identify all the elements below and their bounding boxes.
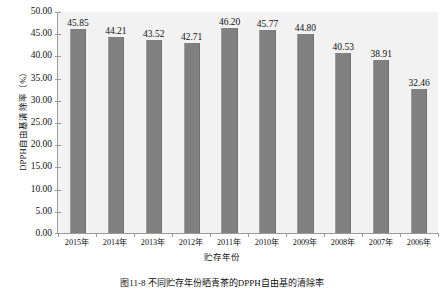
x-axis-title: 贮存年份 [0, 252, 444, 263]
bar-value-label: 42.71 [181, 32, 202, 42]
x-tick-mark [362, 233, 363, 237]
y-tick-label: 10.00 [12, 185, 52, 195]
x-tick-label: 2007年 [362, 238, 400, 248]
x-tick-mark [210, 233, 211, 237]
x-tick-mark [172, 233, 173, 237]
bar-slot: 46.20 [211, 12, 249, 233]
bar-value-label: 45.85 [67, 18, 88, 28]
bar-value-label: 43.52 [143, 29, 164, 39]
bar-slot: 43.52 [135, 12, 173, 233]
x-axis-tick-labels: 2015年2014年2013年2012年2011年2010年2009年2008年… [58, 238, 438, 248]
x-tick-label: 2012年 [172, 238, 210, 248]
figure-caption: 图11-8 不同贮存年份晒青茶的DPPH自由基的清除率 [0, 278, 444, 289]
bar-slot: 40.53 [324, 12, 362, 233]
bar[interactable] [411, 89, 427, 233]
bar-value-label: 40.53 [333, 42, 354, 52]
bar-value-label: 45.77 [257, 19, 278, 29]
bar[interactable] [335, 53, 351, 233]
y-tick-mark [55, 190, 61, 191]
bar-slot: 44.80 [286, 12, 324, 233]
bar[interactable] [184, 43, 200, 233]
y-tick-mark [55, 12, 61, 13]
y-tick-label: 50.00 [12, 7, 52, 17]
x-tick-mark [248, 233, 249, 237]
figure-container: DPPH自由基清除率（%） 0.005.0010.0015.0020.0025.… [0, 0, 444, 289]
bar[interactable] [146, 40, 162, 233]
y-tick-label: 25.00 [12, 118, 52, 128]
x-tick-label: 2013年 [134, 238, 172, 248]
bar-value-label: 32.46 [408, 78, 429, 88]
y-tick-label: 15.00 [12, 163, 52, 173]
y-tick-label: 20.00 [12, 140, 52, 150]
x-tick-mark [134, 233, 135, 237]
bar-series: 45.8544.2143.5242.7146.2045.7744.8040.53… [59, 12, 438, 233]
x-tick-label: 2006年 [400, 238, 438, 248]
bar-value-label: 38.91 [371, 49, 392, 59]
bar[interactable] [108, 37, 124, 233]
y-tick-mark [55, 212, 61, 213]
y-tick-mark [55, 34, 61, 35]
bar[interactable] [373, 60, 389, 233]
bar[interactable] [297, 34, 313, 233]
x-tick-label: 2009年 [286, 238, 324, 248]
bar-slot: 38.91 [362, 12, 400, 233]
y-tick-label: 0.00 [12, 229, 52, 239]
y-tick-mark [55, 101, 61, 102]
y-tick-label: 40.00 [12, 52, 52, 62]
bar[interactable] [221, 28, 237, 233]
bar-value-label: 46.20 [219, 17, 240, 27]
y-tick-label: 30.00 [12, 96, 52, 106]
x-tick-mark [438, 233, 439, 237]
y-tick-mark [55, 79, 61, 80]
bar-slot: 45.77 [249, 12, 287, 233]
y-tick-label: 45.00 [12, 29, 52, 39]
y-tick-label: 5.00 [12, 207, 52, 217]
bar[interactable] [70, 29, 86, 233]
y-tick-mark [55, 56, 61, 57]
bar-value-label: 44.80 [295, 23, 316, 33]
y-tick-mark [55, 145, 61, 146]
y-tick-mark [55, 167, 61, 168]
bar-slot: 44.21 [97, 12, 135, 233]
x-tick-label: 2010年 [248, 238, 286, 248]
x-tick-label: 2011年 [210, 238, 248, 248]
bar-value-label: 44.21 [105, 26, 126, 36]
bar[interactable] [259, 30, 275, 233]
x-tick-mark [286, 233, 287, 237]
y-axis-tick-labels: 0.005.0010.0015.0020.0025.0030.0035.0040… [12, 12, 52, 234]
y-tick-mark [55, 123, 61, 124]
x-tick-mark [96, 233, 97, 237]
bar-slot: 42.71 [173, 12, 211, 233]
plot-area: 45.8544.2143.5242.7146.2045.7744.8040.53… [57, 12, 438, 234]
x-tick-mark [58, 233, 59, 237]
x-tick-label: 2008年 [324, 238, 362, 248]
x-tick-label: 2014年 [96, 238, 134, 248]
y-tick-label: 35.00 [12, 74, 52, 84]
plot-inner: 45.8544.2143.5242.7146.2045.7744.8040.53… [58, 12, 438, 233]
x-tick-label: 2015年 [58, 238, 96, 248]
bar-slot: 45.85 [59, 12, 97, 233]
x-tick-mark [324, 233, 325, 237]
bar-slot: 32.46 [400, 12, 438, 233]
x-tick-mark [400, 233, 401, 237]
